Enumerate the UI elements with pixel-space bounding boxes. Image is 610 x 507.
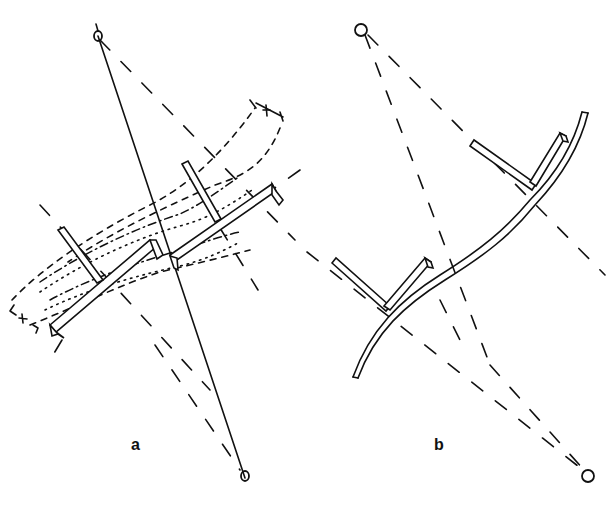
panel-b	[307, 24, 605, 482]
pivot-bottom-b	[582, 470, 594, 482]
envelope-outer-top	[12, 108, 255, 300]
arm-upper-left	[470, 140, 536, 190]
panel-a	[10, 24, 300, 481]
envelope-inner-3	[50, 232, 240, 300]
diagram-canvas	[0, 0, 610, 507]
panel-a-label: a	[131, 436, 140, 454]
radial-dashed-a1	[100, 40, 295, 240]
radial-dashed-a6	[220, 228, 258, 290]
envelope-marker-bottom	[19, 314, 27, 323]
beam-left	[50, 240, 156, 332]
curved-beam-end-bottom	[353, 377, 358, 378]
radial-dashed-b4	[490, 365, 584, 470]
arm-lower-right	[384, 258, 431, 310]
radial-dashed-a4	[50, 340, 62, 360]
pivot-top-b	[355, 24, 367, 36]
arm-upper-right	[530, 133, 566, 186]
beam-right-joint	[170, 256, 178, 270]
envelope-outer-right	[68, 128, 280, 262]
radial-dashed-a5	[155, 345, 240, 470]
radial-dashed-b1	[365, 35, 490, 365]
panel-b-label: b	[434, 436, 444, 454]
beam-right-end-hook	[272, 184, 283, 205]
radial-dashed-b3	[307, 252, 588, 474]
crossbar-left	[58, 227, 103, 283]
curved-beam-end-top	[582, 112, 588, 113]
radial-dashed-b5	[440, 300, 460, 340]
arm-lower-left	[332, 258, 390, 311]
